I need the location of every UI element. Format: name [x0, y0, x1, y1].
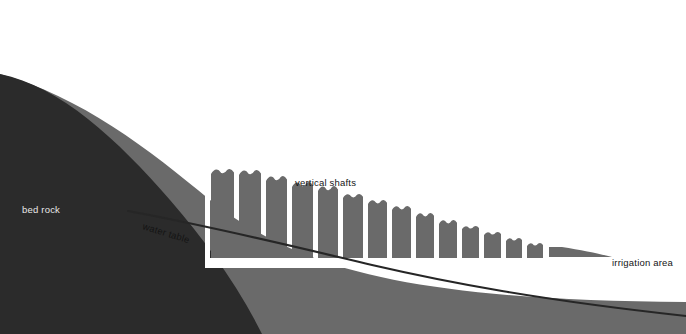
vertical-shaft-5 [318, 186, 338, 258]
vertical-shaft-10 [439, 220, 457, 258]
qanat-diagram: bed rock water table vertical shafts irr… [0, 0, 686, 334]
vertical-shaft-9 [416, 213, 434, 258]
label-bed-rock: bed rock [22, 204, 60, 215]
vertical-shaft-12 [484, 232, 501, 258]
label-irrigation-area: irrigation area [612, 257, 674, 268]
vertical-shaft-8 [392, 206, 411, 258]
vertical-shaft-2 [239, 170, 261, 258]
diagram-canvas: bed rock water table vertical shafts irr… [0, 0, 686, 334]
vertical-shaft-13 [506, 238, 522, 258]
vertical-shaft-1 [211, 169, 234, 258]
vertical-shaft-6 [343, 194, 363, 258]
vertical-shaft-11 [462, 226, 479, 258]
vertical-shaft-3 [266, 176, 287, 258]
vertical-shaft-7 [368, 200, 387, 258]
channel-riser [205, 168, 210, 260]
label-vertical-shafts: vertical shafts [295, 177, 356, 188]
